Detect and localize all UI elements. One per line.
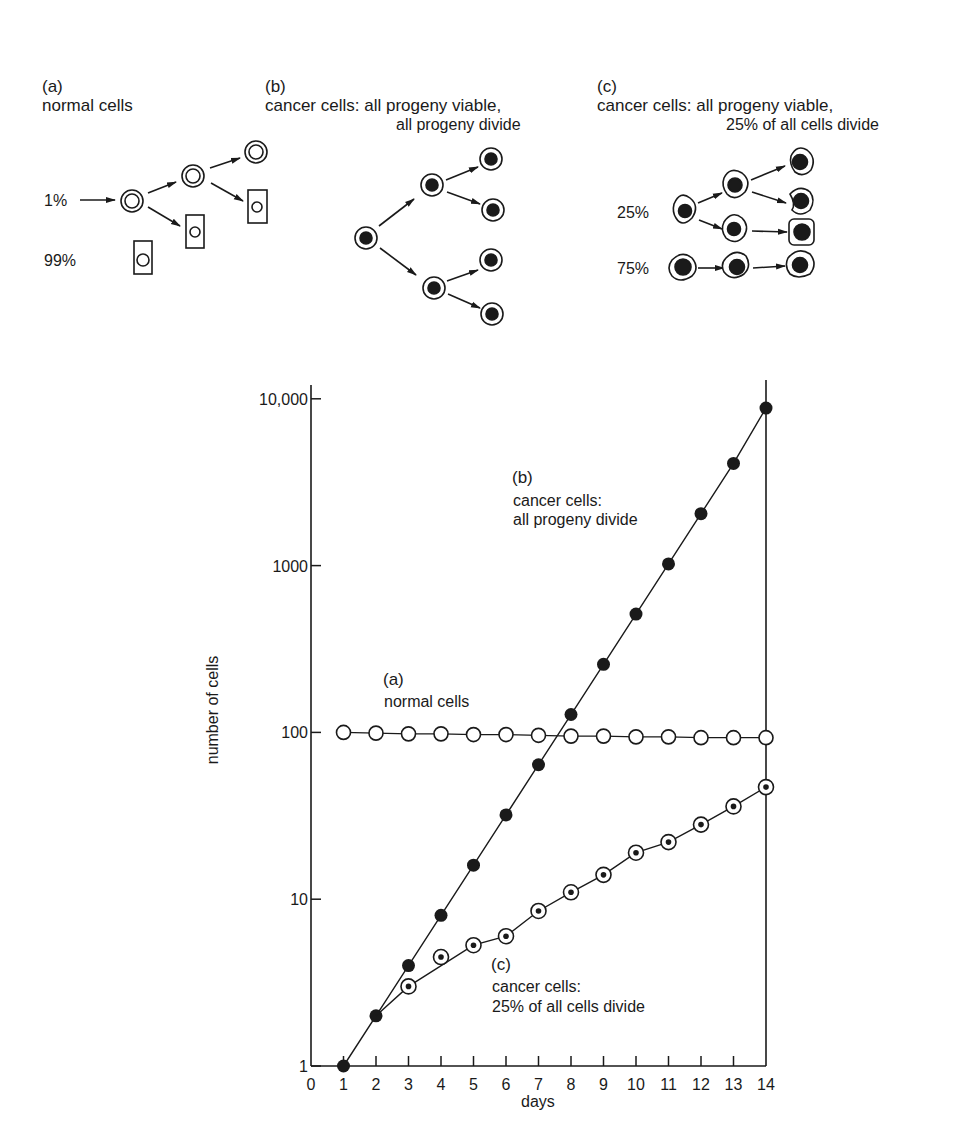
y-axis-label: number of cells [203, 645, 223, 775]
data-point-cancer-b [467, 859, 480, 872]
data-point-normal [434, 727, 448, 741]
data-point-cancer-c-dot [633, 850, 639, 856]
x-tick-label: 1 [339, 1076, 348, 1093]
x-tick-label: 9 [599, 1076, 608, 1093]
growth-chart: 110100100010,00001234567891011121314 [0, 0, 977, 1141]
data-point-cancer-b [402, 959, 415, 972]
x-tick-label: 11 [660, 1076, 677, 1093]
x-tick-label: 2 [372, 1076, 381, 1093]
x-tick-label: 14 [757, 1076, 775, 1093]
data-point-cancer-b [435, 909, 448, 922]
data-point-normal [564, 729, 578, 743]
data-point-normal [532, 728, 546, 742]
annotation-c-line1: cancer cells: [492, 977, 581, 997]
x-axis-label: days [521, 1092, 555, 1112]
annotation-c-letter: (c) [491, 955, 511, 975]
x-tick-label: 13 [725, 1076, 743, 1093]
data-point-normal [402, 727, 416, 741]
x-tick-label: 4 [437, 1076, 446, 1093]
data-point-cancer-b [337, 1060, 350, 1073]
y-tick-label: 100 [281, 724, 308, 741]
x-tick-label: 8 [567, 1076, 576, 1093]
y-tick-label: 10,000 [259, 391, 308, 408]
data-point-cancer-b [597, 658, 610, 671]
y-tick-label: 1000 [272, 558, 308, 575]
annotation-c-line2: 25% of all cells divide [492, 997, 645, 1017]
data-point-normal [337, 725, 351, 739]
x-tick-label: 6 [502, 1076, 511, 1093]
data-point-cancer-c-dot [406, 984, 412, 990]
data-point-cancer-c-dot [731, 804, 737, 810]
x-tick-label: 0 [307, 1076, 316, 1093]
x-tick-label: 10 [627, 1076, 645, 1093]
data-point-cancer-b [760, 402, 773, 415]
data-point-cancer-c-dot [503, 933, 509, 939]
annotation-b-line1: cancer cells: [513, 491, 602, 511]
annotation-a-letter: (a) [383, 670, 404, 690]
annotation-b-letter: (b) [512, 468, 533, 488]
data-point-cancer-c-dot [471, 942, 477, 948]
data-point-cancer-b [500, 808, 513, 821]
data-point-cancer-c-dot [666, 839, 672, 845]
annotation-b-line2: all progeny divide [513, 510, 638, 530]
data-point-cancer-b [727, 457, 740, 470]
data-point-cancer-c-dot [601, 872, 607, 878]
data-point-normal [727, 731, 741, 745]
data-point-normal [467, 728, 481, 742]
data-point-cancer-b [565, 708, 578, 721]
x-tick-label: 12 [692, 1076, 710, 1093]
data-point-normal [597, 729, 611, 743]
data-point-cancer-b [630, 608, 643, 621]
data-point-cancer-c-dot [568, 889, 574, 895]
data-point-normal [499, 728, 513, 742]
data-point-cancer-b [695, 507, 708, 520]
y-tick-label: 1 [299, 1058, 308, 1075]
y-tick-label: 10 [290, 891, 308, 908]
data-point-normal [369, 726, 383, 740]
data-point-normal [694, 731, 708, 745]
data-point-cancer-c-dot [763, 784, 769, 790]
data-point-normal [629, 730, 643, 744]
x-tick-label: 5 [469, 1076, 478, 1093]
data-point-cancer-b [662, 557, 675, 570]
data-point-normal [662, 730, 676, 744]
data-point-cancer-b [532, 758, 545, 771]
data-point-cancer-c-dot [438, 954, 444, 960]
x-tick-label: 7 [534, 1076, 543, 1093]
data-point-normal [759, 731, 773, 745]
annotation-a-line1: normal cells [384, 692, 469, 712]
data-point-cancer-c-dot [536, 908, 542, 914]
data-point-cancer-c-dot [698, 822, 704, 828]
x-tick-label: 3 [404, 1076, 413, 1093]
